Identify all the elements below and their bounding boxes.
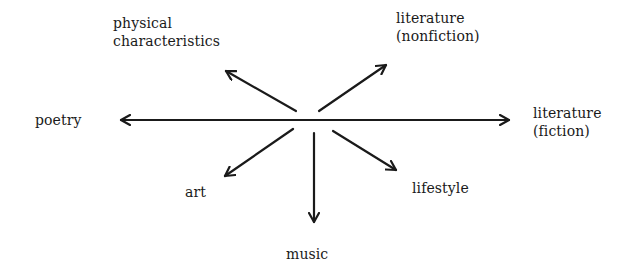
label-lifestyle: lifestyle <box>412 179 469 197</box>
label-physical-line2: characteristics <box>113 32 220 50</box>
label-physical-line1: physical <box>113 14 220 32</box>
label-lit-nonfiction-line1: literature <box>396 9 480 27</box>
label-music-line1: music <box>286 245 328 263</box>
label-art: art <box>185 183 206 201</box>
label-lit-nonfiction-line2: (nonfiction) <box>396 27 480 45</box>
arrow-to-lifestyle <box>333 131 396 170</box>
label-poetry-line1: poetry <box>35 111 82 129</box>
label-art-line1: art <box>185 183 206 201</box>
label-lit-fiction-line1: literature <box>533 104 602 122</box>
label-physical-characteristics: physical characteristics <box>113 14 220 50</box>
label-lifestyle-line1: lifestyle <box>412 179 469 197</box>
arrow-to-physical-characteristics <box>226 71 296 111</box>
label-music: music <box>286 245 328 263</box>
label-literature-fiction: literature (fiction) <box>533 104 602 140</box>
label-poetry: poetry <box>35 111 82 129</box>
arrow-to-art <box>225 129 293 176</box>
label-lit-fiction-line2: (fiction) <box>533 122 602 140</box>
label-literature-nonfiction: literature (nonfiction) <box>396 9 480 45</box>
diagram-canvas: physical characteristics literature (non… <box>0 0 637 277</box>
arrow-to-literature-nonfiction <box>319 65 386 111</box>
